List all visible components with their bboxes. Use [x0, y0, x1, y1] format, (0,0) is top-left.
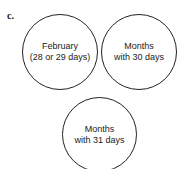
- circle-february: February (28 or 29 days): [22, 14, 98, 90]
- circle-30-days: Months with 30 days: [101, 14, 177, 90]
- circle-31-days: Months with 31 days: [62, 97, 137, 169]
- circle-text-line1: February: [30, 41, 91, 52]
- circle-text-line2: with 30 days: [114, 52, 164, 63]
- circle-text-line1: Months: [114, 41, 164, 52]
- circle-text-line2: with 31 days: [74, 135, 124, 146]
- circle-text-line1: Months: [74, 124, 124, 135]
- circle-text-line2: (28 or 29 days): [30, 52, 91, 63]
- circle-text: Months with 31 days: [74, 124, 124, 146]
- circle-text: Months with 30 days: [114, 41, 164, 63]
- circle-text: February (28 or 29 days): [30, 41, 91, 63]
- figure-label: c.: [7, 10, 14, 21]
